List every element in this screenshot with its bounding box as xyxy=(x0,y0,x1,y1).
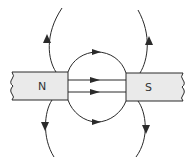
south-magnet xyxy=(126,73,184,101)
arrow-icon xyxy=(90,89,100,95)
arrow-icon xyxy=(90,77,100,83)
magnetic-field-diagram xyxy=(0,0,190,168)
arrow-icon xyxy=(41,122,49,131)
field-line-left-top xyxy=(49,8,62,72)
arrow-icon xyxy=(142,125,150,134)
field-line-upper-arc xyxy=(68,52,126,73)
north-pole-label: N xyxy=(38,81,46,92)
south-pole-label: S xyxy=(145,82,152,93)
arrow-icon xyxy=(145,36,153,45)
field-line-right-top xyxy=(138,10,147,73)
arrow-icon xyxy=(92,49,101,55)
field-line-left-bottom xyxy=(46,100,55,157)
field-line-lower-arc xyxy=(68,100,126,122)
arrow-icon xyxy=(92,119,101,125)
